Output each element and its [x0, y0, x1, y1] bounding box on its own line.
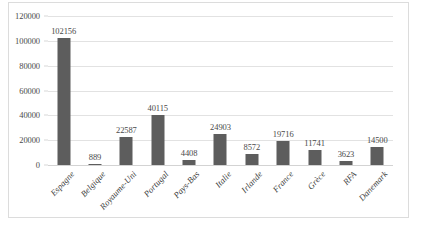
bar[interactable]	[371, 147, 384, 165]
bar-series: 1021568892258740115440824903857219716117…	[48, 16, 393, 165]
bar-value-label: 11741	[304, 138, 324, 148]
x-axis-tick-label: Italie	[213, 169, 233, 190]
x-axis-tick-label: RFA	[341, 169, 359, 187]
bar[interactable]	[183, 160, 196, 165]
y-axis-tick-label: 20000	[0, 135, 40, 145]
bar-slot: 22587	[111, 16, 142, 165]
bar[interactable]	[277, 141, 290, 165]
y-axis-tick-label: 120000	[0, 11, 40, 21]
bar-slot: 14500	[362, 16, 393, 165]
bar-slot: 889	[79, 16, 110, 165]
bar-value-label: 3623	[338, 149, 355, 159]
bar-slot: 19716	[268, 16, 299, 165]
bar-value-label: 24903	[210, 122, 231, 132]
x-axis-tick-label: Irlande	[239, 169, 264, 195]
plot-area: 1021568892258740115440824903857219716117…	[48, 16, 393, 165]
bar-value-label: 14500	[367, 135, 388, 145]
y-axis-tick-label: 80000	[0, 61, 40, 71]
y-axis-tick-label: 100000	[0, 36, 40, 46]
bar[interactable]	[214, 134, 227, 165]
bar-value-label: 102156	[51, 26, 76, 36]
x-axis-tick-label: Espagne	[48, 169, 76, 198]
y-axis: 020000400006000080000100000120000	[0, 0, 44, 230]
bar-slot: 3623	[330, 16, 361, 165]
bar-value-label: 19716	[273, 129, 294, 139]
bar[interactable]	[89, 164, 102, 165]
bar-slot: 40115	[142, 16, 173, 165]
bar-chart: 020000400006000080000100000120000 102156…	[0, 0, 421, 230]
bar-slot: 4408	[173, 16, 204, 165]
x-axis-category-labels: EspagneBelgiqueRoyaume-UniPortugalPays-B…	[48, 167, 393, 227]
bar-slot: 11741	[299, 16, 330, 165]
bar[interactable]	[339, 161, 352, 165]
y-axis-tick-label: 60000	[0, 86, 40, 96]
x-axis-tick-label: Danemark	[357, 169, 390, 203]
x-axis-tick-label: Grèce	[305, 169, 327, 192]
gridline	[48, 165, 393, 166]
bar[interactable]	[308, 150, 321, 165]
bar-value-label: 8572	[244, 142, 261, 152]
x-axis-tick-label: France	[271, 169, 296, 194]
bar[interactable]	[151, 115, 164, 165]
bar[interactable]	[120, 137, 133, 165]
bar-value-label: 4408	[181, 148, 198, 158]
bar-slot: 8572	[236, 16, 267, 165]
bar-value-label: 22587	[116, 125, 137, 135]
bar-slot: 102156	[48, 16, 79, 165]
x-axis-tick-label: Portugal	[141, 169, 170, 199]
bar-value-label: 889	[89, 152, 101, 162]
bar-value-label: 40115	[148, 103, 168, 113]
bar[interactable]	[57, 38, 70, 165]
bar-slot: 24903	[205, 16, 236, 165]
x-axis-tick-label: Belgique	[79, 169, 108, 199]
bar[interactable]	[245, 154, 258, 165]
x-axis-tick-label: Pays-Bas	[171, 169, 201, 200]
y-axis-tick-label: 40000	[0, 110, 40, 120]
y-axis-tick-label: 0	[0, 160, 40, 170]
